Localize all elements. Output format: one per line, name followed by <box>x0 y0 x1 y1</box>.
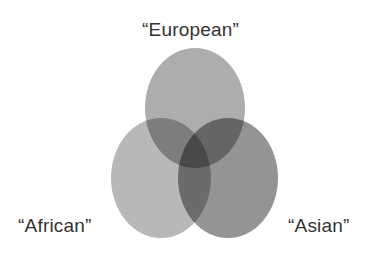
asian-ellipse <box>178 118 278 238</box>
european-label: “European” <box>142 20 239 39</box>
venn-diagram: “European” “African” “Asian” <box>0 0 386 264</box>
african-label: “African” <box>18 216 92 235</box>
asian-label: “Asian” <box>288 216 350 235</box>
